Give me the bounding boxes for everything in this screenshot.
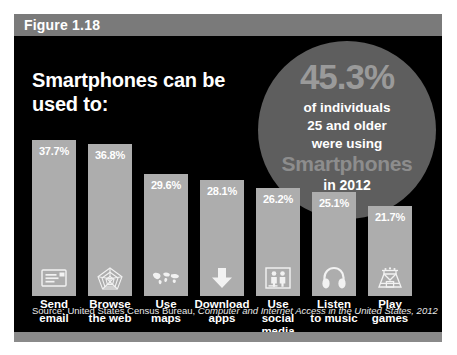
bar-value-label: 21.7% (368, 211, 412, 223)
bar-value-label: 36.8% (88, 149, 132, 161)
callout-line-1: of individuals (258, 101, 436, 115)
figure-container: Figure 1.18 45.3% of individuals 25 and … (14, 14, 442, 342)
figure-header-bar: Figure 1.18 (14, 14, 442, 36)
web-globe-icon (95, 265, 125, 291)
download-arrow-icon (207, 265, 237, 291)
bar: 29.6% (144, 174, 188, 296)
world-map-icon (151, 265, 181, 291)
figure-footer-bar (14, 332, 442, 342)
bar-value-label: 28.1% (200, 185, 244, 197)
callout-percent-value: 45.3% (258, 59, 436, 94)
bar: 21.7% (368, 206, 412, 296)
bar-value-label: 26.2% (256, 193, 300, 205)
bar-column: 25.1% (312, 192, 356, 296)
bar-column: 26.2% (256, 188, 300, 296)
figure-number-label: Figure 1.18 (24, 17, 100, 33)
bar: 26.2% (256, 188, 300, 296)
bar-value-label: 29.6% (144, 179, 188, 191)
bar: 25.1% (312, 192, 356, 296)
page-title: Smartphones can be used to: (32, 68, 247, 117)
game-arcade-icon (375, 265, 405, 291)
source-citation: Source: United States Census Bureau, Com… (32, 305, 438, 316)
source-prefix: Source: United States Census Bureau, (32, 305, 198, 316)
social-people-icon (263, 265, 293, 291)
bar-column: 28.1% (200, 180, 244, 296)
bar-value-label: 25.1% (312, 197, 356, 209)
bar: 36.8% (88, 144, 132, 296)
bar-column: 21.7% (368, 206, 412, 296)
source-title: Computer and Internet Access in the Unit… (198, 305, 438, 316)
bar-column: 37.7% (32, 140, 76, 296)
bar: 28.1% (200, 180, 244, 296)
bar-column: 36.8% (88, 144, 132, 296)
email-icon (39, 265, 69, 291)
headphones-icon (319, 265, 349, 291)
bar-chart: 37.7%36.8%29.6%28.1%26.2%25.1%21.7% (32, 131, 428, 296)
bar: 37.7% (32, 140, 76, 296)
figure-canvas: 45.3% of individuals 25 and older were u… (14, 36, 442, 332)
bar-value-label: 37.7% (32, 145, 76, 157)
bar-column: 29.6% (144, 174, 188, 296)
